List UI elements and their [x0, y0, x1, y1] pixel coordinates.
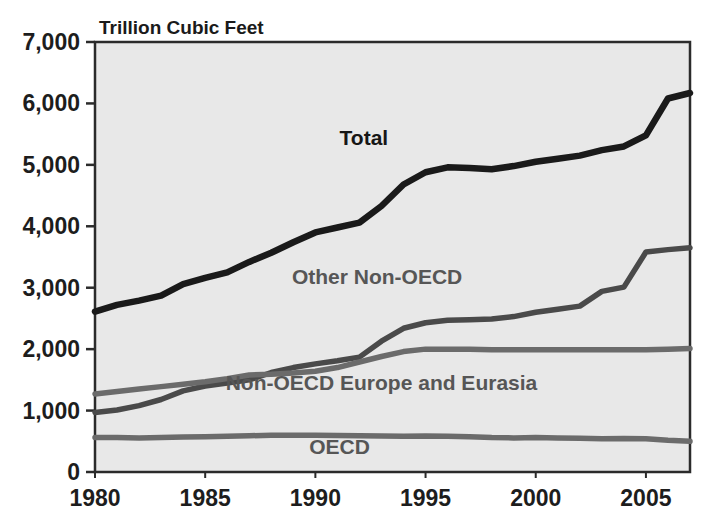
series-label-total: Total — [340, 126, 389, 149]
y-axis-ticks: 01,0002,0003,0004,0005,0006,0007,000 — [22, 29, 95, 485]
y-tick-label: 7,000 — [22, 29, 80, 55]
series-label-other-non-oecd: Other Non-OECD — [292, 265, 462, 288]
series-label-oecd: OECD — [309, 435, 370, 458]
y-tick-label: 4,000 — [22, 213, 80, 239]
x-tick-label: 1995 — [400, 485, 451, 511]
unit-label: Trillion Cubic Feet — [99, 17, 264, 38]
plot-background — [95, 42, 690, 472]
y-tick-label: 3,000 — [22, 275, 80, 301]
line-chart: 01,0002,0003,0004,0005,0006,0007,000 198… — [0, 0, 703, 523]
y-tick-label: 5,000 — [22, 152, 80, 178]
x-tick-label: 1980 — [69, 485, 120, 511]
y-tick-label: 2,000 — [22, 336, 80, 362]
y-tick-label: 1,000 — [22, 398, 80, 424]
chart-figure: 01,0002,0003,0004,0005,0006,0007,000 198… — [0, 0, 703, 523]
series-label-non-oecd-europe-and-eurasia: Non-OECD Europe and Eurasia — [226, 371, 538, 394]
x-tick-label: 2005 — [620, 485, 671, 511]
x-tick-label: 1990 — [290, 485, 341, 511]
y-tick-label: 0 — [67, 459, 80, 485]
x-tick-label: 2000 — [510, 485, 561, 511]
y-tick-label: 6,000 — [22, 90, 80, 116]
x-axis-ticks: 198019851990199520002005 — [69, 472, 671, 511]
x-tick-label: 1985 — [180, 485, 231, 511]
